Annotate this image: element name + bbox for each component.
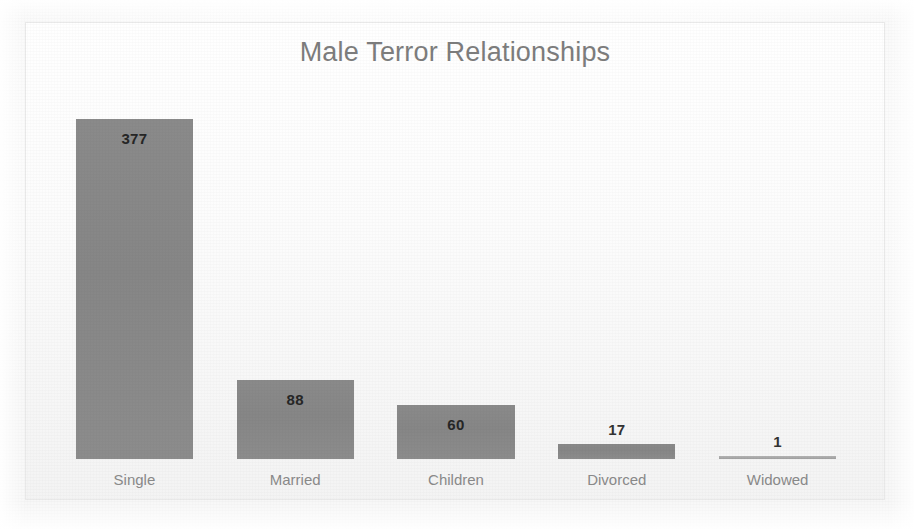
bar-widowed: 1 xyxy=(719,98,836,459)
bar-rect-divorced xyxy=(558,444,675,459)
chart-title: Male Terror Relationships xyxy=(26,37,884,68)
bar-value-married: 88 xyxy=(237,391,354,408)
bar-value-divorced: 17 xyxy=(558,421,675,438)
chart-frame: Male Terror Relationships 3778860171 Sin… xyxy=(25,22,885,500)
bar-rect-single xyxy=(76,119,193,459)
category-axis: SingleMarriedChildrenDivorcedWidowed xyxy=(54,471,858,505)
bar-rect-widowed xyxy=(719,456,836,459)
bar-value-widowed: 1 xyxy=(719,433,836,450)
bar-value-single: 377 xyxy=(76,130,193,147)
category-label-widowed: Widowed xyxy=(697,471,858,488)
bar-married: 88 xyxy=(237,98,354,459)
category-label-divorced: Divorced xyxy=(536,471,697,488)
category-label-married: Married xyxy=(215,471,376,488)
category-label-single: Single xyxy=(54,471,215,488)
bar-divorced: 17 xyxy=(558,98,675,459)
bar-children: 60 xyxy=(397,98,514,459)
category-label-children: Children xyxy=(376,471,537,488)
bar-value-children: 60 xyxy=(397,416,514,433)
scanned-page: Male Terror Relationships 3778860171 Sin… xyxy=(0,0,914,529)
bar-single: 377 xyxy=(76,98,193,459)
plot-area: 3778860171 xyxy=(54,98,858,459)
